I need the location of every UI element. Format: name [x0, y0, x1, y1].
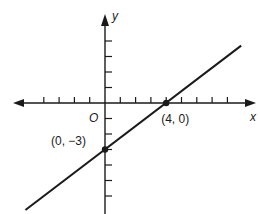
- x-axis-left-arrow-icon: [13, 99, 24, 107]
- origin-label: O: [89, 111, 98, 125]
- y-axis-ticks: [105, 41, 112, 196]
- point-marker: [163, 100, 169, 106]
- x-axis-ticks: [44, 97, 228, 103]
- y-axis-up-arrow-icon: [101, 14, 109, 26]
- coordinate-plane: (0, −3)(4, 0) y x O: [0, 0, 260, 214]
- graph-line: [25, 46, 241, 210]
- point-label: (4, 0): [161, 112, 189, 126]
- x-axis-label: x: [249, 110, 257, 124]
- point-label: (0, −3): [51, 134, 86, 148]
- labeled-points: (0, −3)(4, 0): [51, 100, 189, 153]
- y-axis-label: y: [111, 9, 119, 23]
- x-axis-right-arrow-icon: [245, 99, 256, 107]
- point-marker: [102, 146, 108, 152]
